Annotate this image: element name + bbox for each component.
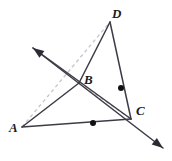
midpoint-AC (90, 120, 96, 126)
segment-BA (22, 83, 79, 127)
vertex-label-b: B (84, 73, 93, 86)
vertex-label-a: A (9, 121, 18, 134)
rays (33, 48, 163, 148)
geometry-figure: A B C D (0, 0, 172, 161)
arrowhead-lower-right-icon (152, 138, 163, 148)
midpoint-DC (118, 85, 124, 91)
vertex-label-d: D (112, 7, 121, 20)
segment-CD (110, 22, 131, 119)
ray-through-B-to-upper-left (33, 48, 131, 119)
dashed-AD (22, 22, 110, 127)
vertex-label-c: C (136, 104, 145, 117)
segment-AC (22, 119, 131, 127)
